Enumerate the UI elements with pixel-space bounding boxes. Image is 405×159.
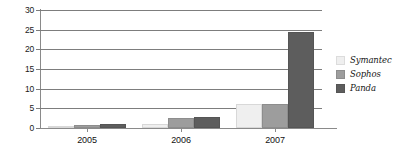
- y-tick-label-25: 25: [6, 25, 34, 35]
- y-tick-label-0: 0: [6, 123, 34, 133]
- bar-sophos-2007[interactable]: [262, 104, 288, 128]
- x-axis-label-2007: 2007: [245, 135, 305, 145]
- bar-panda-2007[interactable]: [288, 32, 314, 128]
- x-tick-mark-2006: [181, 128, 182, 132]
- legend-item-panda[interactable]: Panda: [336, 84, 392, 93]
- bar-sophos-2006[interactable]: [168, 118, 194, 128]
- chart-legend: Symantec Sophos Panda: [336, 56, 392, 93]
- y-tick-label-5: 5: [6, 103, 34, 113]
- legend-label-sophos: Sophos: [350, 70, 381, 79]
- bar-symantec-2006[interactable]: [142, 124, 168, 128]
- bar-groups: [40, 10, 322, 128]
- legend-swatch-symantec: [336, 56, 345, 65]
- legend-label-symantec: Symantec: [350, 56, 392, 65]
- plot-area: 051015202530: [40, 10, 322, 128]
- x-axis-label-2005: 2005: [57, 135, 117, 145]
- legend-swatch-sophos: [336, 70, 345, 79]
- y-tick-label-15: 15: [6, 64, 34, 74]
- y-tick-label-20: 20: [6, 44, 34, 54]
- bar-group-2007: [236, 10, 314, 128]
- legend-item-sophos[interactable]: Sophos: [336, 70, 392, 79]
- bar-group-2005: [48, 10, 126, 128]
- x-tick-mark-2005: [87, 128, 88, 132]
- x-axis-line: [40, 128, 337, 129]
- x-axis-label-2006: 2006: [151, 135, 211, 145]
- bar-panda-2006[interactable]: [194, 117, 220, 128]
- x-tick-mark-2007: [275, 128, 276, 132]
- bar-panda-2005[interactable]: [100, 124, 126, 128]
- bar-symantec-2005[interactable]: [48, 126, 74, 128]
- legend-item-symantec[interactable]: Symantec: [336, 56, 392, 65]
- bar-chart: 051015202530 200520062007 Symantec Sopho…: [0, 0, 405, 159]
- legend-label-panda: Panda: [350, 84, 376, 93]
- bar-symantec-2007[interactable]: [236, 104, 262, 128]
- y-tick-mark-0: [36, 128, 40, 129]
- y-tick-label-30: 30: [6, 5, 34, 15]
- bar-group-2006: [142, 10, 220, 128]
- legend-swatch-panda: [336, 84, 345, 93]
- y-tick-label-10: 10: [6, 84, 34, 94]
